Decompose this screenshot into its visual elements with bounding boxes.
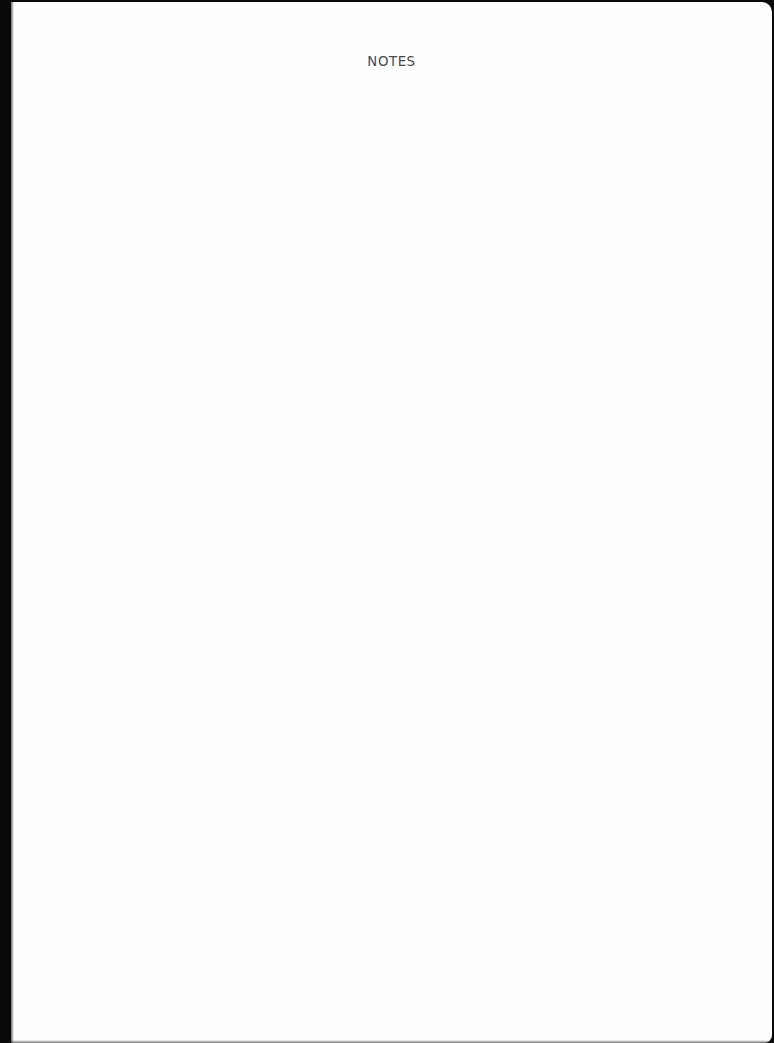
notes-page: NOTES xyxy=(11,2,772,1043)
page-title: NOTES xyxy=(41,53,741,69)
scan-left-edge xyxy=(0,0,14,1043)
